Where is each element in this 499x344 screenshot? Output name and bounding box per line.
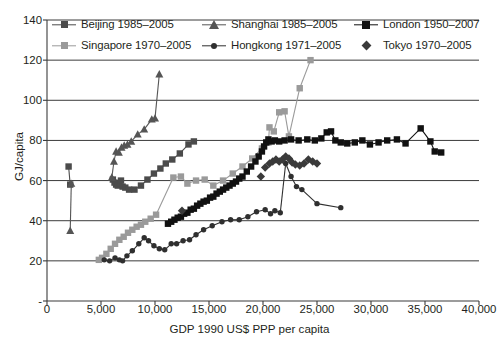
x-axis-title: GDP 1990 US$ PPP per capita xyxy=(0,322,499,335)
y-tick-label: - xyxy=(4,295,42,307)
legend-marker-icon xyxy=(354,19,378,30)
legend-marker-icon xyxy=(354,40,378,51)
legend-item-london[interactable]: London 1950–2007 xyxy=(354,19,492,30)
x-tick-label: 30,000 xyxy=(354,303,389,315)
y-tick-label: 40 xyxy=(4,215,42,227)
series-hongkong xyxy=(102,161,344,264)
legend-item-label: Shanghai 1985–2005 xyxy=(231,19,338,30)
x-tick-label: 15,000 xyxy=(192,303,227,315)
y-tick-label: 100 xyxy=(4,94,42,106)
legend-marker-icon xyxy=(202,19,226,30)
legend-item-hongkong[interactable]: Hongkong 1971–2005 xyxy=(202,40,354,51)
chart-legend: Beijing 1985–2005Shanghai 1985–2005Londo… xyxy=(52,14,492,56)
legend-marker-icon xyxy=(52,19,76,30)
y-tick-label: 120 xyxy=(4,54,42,66)
legend-marker-icon xyxy=(52,40,76,51)
y-tick-label: 80 xyxy=(4,134,42,146)
chart-figure: Beijing 1985–2005Shanghai 1985–2005Londo… xyxy=(0,0,499,344)
legend-item-beijing[interactable]: Beijing 1985–2005 xyxy=(52,19,202,30)
legend-marker-icon xyxy=(202,40,226,51)
series-shanghai xyxy=(66,70,163,234)
legend-item-singapore[interactable]: Singapore 1970–2005 xyxy=(52,40,202,51)
y-tick-label: 60 xyxy=(4,175,42,187)
x-tick-label: 35,000 xyxy=(408,303,443,315)
data-series-layer xyxy=(65,57,444,264)
legend-item-label: Tokyo 1970–2005 xyxy=(383,40,471,51)
y-tick-label: 140 xyxy=(4,14,42,26)
y-tick-label: 20 xyxy=(4,255,42,267)
x-tick-label: 10,000 xyxy=(138,303,173,315)
legend-item-shanghai[interactable]: Shanghai 1985–2005 xyxy=(202,19,354,30)
x-tick-label: 40,000 xyxy=(462,303,497,315)
series-beijing xyxy=(65,138,197,193)
legend-item-label: Beijing 1985–2005 xyxy=(81,19,174,30)
legend-item-tokyo[interactable]: Tokyo 1970–2005 xyxy=(354,40,492,51)
x-tick-label: 5,000 xyxy=(87,303,116,315)
x-tick-label: 25,000 xyxy=(300,303,335,315)
grid-lines xyxy=(47,20,479,261)
legend-item-label: Hongkong 1971–2005 xyxy=(231,40,341,51)
x-tick-label: 0 xyxy=(44,303,50,315)
x-tick-label: 20,000 xyxy=(246,303,281,315)
legend-item-label: London 1950–2007 xyxy=(383,19,480,30)
legend-item-label: Singapore 1970–2005 xyxy=(81,40,191,51)
